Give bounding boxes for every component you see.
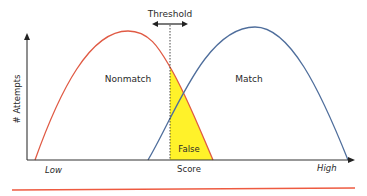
false-label: False	[178, 144, 199, 154]
x-low-label: Low	[45, 165, 62, 175]
y-axis	[24, 33, 30, 160]
bottom-rule	[12, 188, 355, 190]
y-axis-label: # Attempts	[12, 74, 22, 123]
threshold-label: Threshold	[147, 9, 192, 19]
x-axis-label: Score	[177, 164, 201, 174]
nonmatch-label: Nonmatch	[105, 74, 151, 84]
match-label: Match	[235, 74, 262, 84]
x-high-label: High	[317, 163, 337, 173]
threshold-diagram: Threshold Nonmatch Match False Score Low…	[0, 0, 367, 196]
